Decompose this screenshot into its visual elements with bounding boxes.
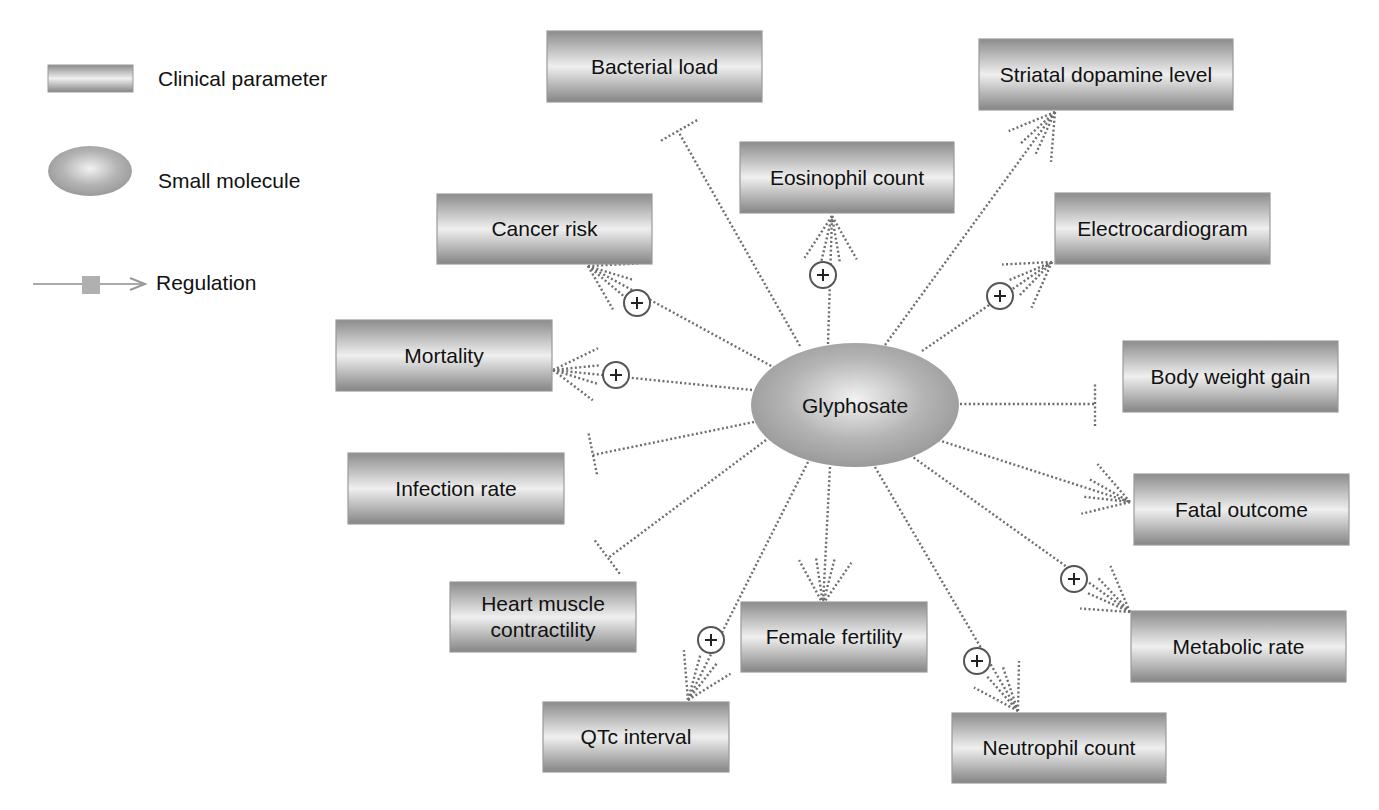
node-metabolic-rate[interactable]: Metabolic rate <box>1131 611 1346 682</box>
node-mortality[interactable]: Mortality <box>336 320 552 391</box>
plus-circle-icon <box>1061 566 1087 592</box>
node-qtc-interval[interactable]: QTc interval <box>543 702 729 772</box>
node-label: Fatal outcome <box>1175 498 1308 521</box>
edge-body-weight-gain <box>960 382 1095 426</box>
edge-line <box>823 467 830 604</box>
plus-circle-icon <box>603 362 629 388</box>
node-neutrophil-count[interactable]: Neutrophil count <box>952 713 1166 783</box>
node-label: Mortality <box>404 344 484 367</box>
node-label: Infection rate <box>395 477 516 500</box>
edge-line <box>588 266 775 368</box>
node-electrocardiogram[interactable]: Electrocardiogram <box>1055 193 1270 264</box>
edge-mortality <box>553 348 752 400</box>
edge-metabolic-rate <box>910 455 1130 612</box>
arrowhead-icon <box>684 650 731 700</box>
node-label: Metabolic rate <box>1173 635 1305 658</box>
plus-circle-icon <box>698 627 724 653</box>
legend-label: Clinical parameter <box>158 67 327 90</box>
small-molecule-icon <box>48 146 132 196</box>
node-label: Bacterial load <box>591 55 718 78</box>
edge-neutrophil-count <box>875 467 1019 711</box>
node-body-weight-gain[interactable]: Body weight gain <box>1123 341 1338 412</box>
edge-female-fertility <box>799 467 851 604</box>
inhibition-bar-icon <box>659 120 697 142</box>
node-label: Heart muscle <box>481 592 605 615</box>
glyphosate-network-diagram: Clinical parameter Small molecule Regula… <box>0 0 1379 810</box>
edge-electrocardiogram <box>922 262 1052 351</box>
node-label: Electrocardiogram <box>1077 217 1247 240</box>
node-label: contractility <box>490 618 596 641</box>
inhibition-bar-icon <box>595 540 621 575</box>
arrowhead-icon <box>799 557 851 604</box>
node-glyphosate[interactable]: Glyphosate <box>751 343 959 467</box>
edge-line <box>910 455 1130 612</box>
legend: Clinical parameter Small molecule Regula… <box>33 65 327 294</box>
node-bacterial-load[interactable]: Bacterial load <box>547 31 762 102</box>
nodes: GlyphosateBacterial loadStriatal dopamin… <box>336 31 1349 783</box>
edge-fatal-outcome <box>938 440 1130 514</box>
node-cancer-risk[interactable]: Cancer risk <box>437 194 652 264</box>
legend-item-regulation: Regulation <box>33 271 256 294</box>
node-infection-rate[interactable]: Infection rate <box>348 453 564 524</box>
edge-line <box>608 440 766 558</box>
node-female-fertility[interactable]: Female fertility <box>741 602 927 672</box>
node-eosinophil-count[interactable]: Eosinophil count <box>740 142 954 213</box>
edge-line <box>593 422 754 455</box>
legend-label: Small molecule <box>158 169 300 192</box>
edge-line <box>875 467 1018 711</box>
legend-item-small-molecule: Small molecule <box>48 146 300 196</box>
edge-eosinophil-count <box>805 216 857 344</box>
edge-heart-muscle <box>595 440 766 576</box>
legend-label: Regulation <box>156 271 256 294</box>
plus-circle-icon <box>810 262 836 288</box>
node-label: Glyphosate <box>802 394 908 417</box>
node-striatal-dopamine[interactable]: Striatal dopamine level <box>979 39 1233 110</box>
plus-circle-icon <box>964 648 990 674</box>
arrowhead-icon <box>805 216 857 263</box>
node-label: Female fertility <box>766 625 903 648</box>
node-fatal-outcome[interactable]: Fatal outcome <box>1134 474 1349 545</box>
arrowhead-icon <box>1080 566 1130 612</box>
legend-item-clinical-parameter: Clinical parameter <box>48 65 327 92</box>
node-label: Striatal dopamine level <box>1000 63 1212 86</box>
node-label: Eosinophil count <box>770 166 924 189</box>
edge-infection-rate <box>589 422 754 477</box>
node-label: QTc interval <box>581 725 692 748</box>
edge-line <box>938 440 1130 502</box>
node-label: Body weight gain <box>1151 365 1311 388</box>
arrowhead-icon <box>1009 112 1055 162</box>
edge-cancer-risk <box>588 263 775 368</box>
node-label: Cancer risk <box>491 217 598 240</box>
plus-circle-icon <box>624 290 650 316</box>
plus-circle-icon <box>987 283 1013 309</box>
node-heart-muscle[interactable]: Heart musclecontractility <box>450 582 636 652</box>
node-label: Neutrophil count <box>983 736 1136 759</box>
regulation-arrow-icon <box>33 276 145 294</box>
clinical-parameter-icon <box>48 65 133 92</box>
inhibition-bar-icon <box>589 433 598 476</box>
